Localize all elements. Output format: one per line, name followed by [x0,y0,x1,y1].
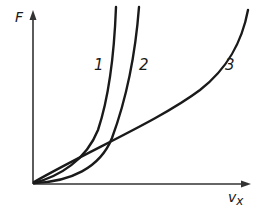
y-axis-label: F [15,9,24,25]
diagram-canvas: F vx 1 2 3 [0,0,261,207]
curve-3 [34,10,248,182]
curve-2-label: 2 [139,56,149,74]
x-axis-label-sub: x [235,194,244,207]
curve-1-label: 1 [94,56,104,74]
curve-2 [34,7,139,183]
x-axis-arrow-icon [241,181,251,188]
curve-3-label: 3 [225,56,235,74]
y-axis-arrow-icon [30,10,37,20]
x-axis-label: vx [228,189,244,207]
curve-1 [34,7,116,183]
